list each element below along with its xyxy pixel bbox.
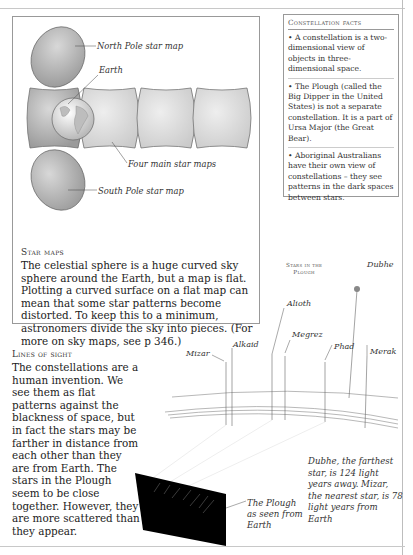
four-main-maps-label: Four main star maps — [128, 159, 216, 169]
fact-item: • Aboriginal Australians have their own … — [288, 151, 394, 203]
star-label-alioth: Alioth — [287, 299, 311, 308]
facts-title: Constellation facts — [288, 18, 394, 30]
star-label-mizar: Mizar — [186, 349, 210, 358]
lines-of-sight-title: Lines of sight — [12, 349, 72, 359]
distance-caption: Dubhe, the farthest star, is 124 light y… — [308, 456, 404, 526]
star-label-alkaid: Alkaid — [233, 340, 259, 349]
fact-divider — [288, 78, 394, 79]
dubhe-star-icon — [354, 286, 360, 292]
earth-label: Earth — [99, 65, 123, 75]
star-label-merak: Merak — [370, 347, 396, 356]
south-pole-map-icon — [21, 141, 94, 219]
fact-divider — [288, 147, 394, 148]
star-maps-body: The celestial sphere is a huge curved sk… — [21, 259, 257, 347]
south-pole-label: South Pole star map — [98, 186, 184, 196]
plough-caption: The Plough as seen from Earth — [247, 498, 307, 531]
star-label-megrez: Megrez — [292, 330, 323, 339]
plough-card-icon — [135, 473, 246, 546]
north-pole-map-icon — [21, 18, 94, 96]
star-label-dubhe: Dubhe — [367, 260, 394, 269]
constellation-facts-box: Constellation facts • A constellation is… — [283, 14, 399, 197]
lines-of-sight-body: The constellations are a human invention… — [12, 361, 142, 537]
plough-diagram-title: Stars in the Plough — [286, 262, 322, 276]
earth-globe-icon — [52, 98, 94, 140]
star-label-phad: Phad — [334, 342, 354, 351]
fact-item: • The Plough (called the Big Dipper in t… — [288, 82, 394, 144]
fact-item: • A constellation is a two-dimensional v… — [288, 33, 394, 75]
north-pole-label: North Pole star map — [97, 41, 183, 51]
star-maps-title: Star maps — [21, 247, 64, 257]
bottom-rule — [0, 546, 405, 547]
